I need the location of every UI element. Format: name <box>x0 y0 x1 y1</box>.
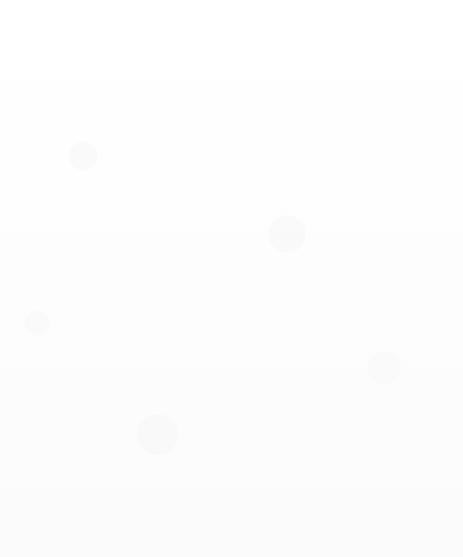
bar <box>163 80 245 88</box>
bar <box>163 438 177 446</box>
bar <box>163 112 220 120</box>
bar <box>163 236 194 244</box>
bar <box>163 314 185 322</box>
figure-container: TehranKhorasan, RazaviIsfahanFarsKhuzest… <box>0 0 463 557</box>
bar <box>163 65 247 73</box>
x-tick-label: 0.0 <box>155 510 171 526</box>
bar <box>163 267 194 275</box>
bar <box>163 360 184 368</box>
category-label: Ilam <box>136 480 157 497</box>
bar-value-label: 0.6 <box>178 481 194 498</box>
caption-figure-number: Fig. 1. <box>4 546 32 557</box>
x-tick-label: 8.0 <box>292 510 308 526</box>
plot-area: 13.56.65.24.94.84.03.33.33.22.82.82.52.0… <box>163 14 437 496</box>
bar <box>163 407 180 415</box>
bar <box>163 96 232 104</box>
bar <box>163 34 276 42</box>
bar <box>163 205 197 213</box>
x-tick-label: 6.0 <box>258 510 274 526</box>
x-tick-label: 10.0 <box>323 510 345 526</box>
bar <box>163 469 175 477</box>
category-axis-labels: TehranKhorasan, RazaviIsfahanFarsKhuzest… <box>0 14 157 496</box>
x-tick-label: 4.0 <box>224 510 240 526</box>
bar <box>163 127 220 135</box>
bar <box>163 376 184 384</box>
bar <box>163 174 211 182</box>
x-tick-label: 12.0 <box>357 510 379 526</box>
x-tick-label: 14.0 <box>392 510 414 526</box>
bar <box>163 189 206 197</box>
bar-rows: 13.56.65.24.94.84.03.33.33.22.82.82.52.0… <box>163 14 437 496</box>
bar <box>163 423 178 431</box>
figure-caption: Fig. 1. Population distribution per prov… <box>4 545 459 557</box>
gridline <box>437 14 438 496</box>
bar <box>163 345 185 353</box>
bar <box>163 391 182 399</box>
bar <box>163 220 196 228</box>
bar <box>163 143 218 151</box>
bar <box>163 329 185 337</box>
bar <box>163 18 394 26</box>
bar <box>163 283 190 291</box>
bar <box>163 158 211 166</box>
bar <box>163 485 173 493</box>
bar <box>163 454 175 462</box>
x-tick-label: 16.0 <box>426 510 448 526</box>
bar <box>163 298 187 306</box>
bar <box>163 49 252 57</box>
x-tick-label: 2.0 <box>189 510 205 526</box>
bar <box>163 252 194 260</box>
x-axis-ticks: 0.02.04.06.08.010.012.014.016.0 <box>163 510 437 526</box>
x-axis-title: population millions <box>334 495 437 507</box>
